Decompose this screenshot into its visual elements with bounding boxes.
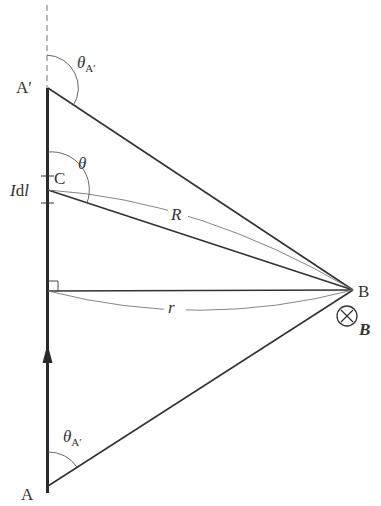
right-angle-marker [48,281,58,291]
line-foot-to-b [48,290,353,291]
biot-savart-diagram: A′ A C B θA′ θ θA′ Idl R r B [0,0,381,506]
current-arrow-icon [43,344,53,363]
point-a-prime-label: A′ [16,78,32,97]
line-a-prime-to-b [48,88,353,290]
field-into-page-icon [337,306,357,326]
point-a-label: A [21,485,34,504]
magnetic-field-B-label: B [358,320,370,339]
theta-label: θ [78,154,86,173]
current-element-label: Idl [9,181,29,200]
point-b-label: B [358,282,369,301]
distance-r-label: r [168,298,175,317]
point-c-label: C [54,169,65,188]
perp-distance-guide-curve [48,290,353,310]
theta-a-prime-bottom-label: θA′ [63,427,82,448]
theta-a-prime-bottom-arc [48,452,77,467]
theta-a-prime-top-label: θA′ [77,53,96,74]
line-a-to-b [48,290,353,486]
distance-R-label: R [170,205,182,224]
line-c-to-b [48,190,353,290]
